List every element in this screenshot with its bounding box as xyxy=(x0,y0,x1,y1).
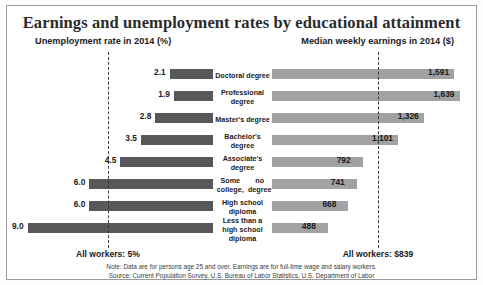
reference-label-earnings: All workers: $839 xyxy=(343,249,414,259)
unemployment-cell: 1.9 xyxy=(7,86,213,108)
footer: Note: Data are for persons age 25 and ov… xyxy=(7,262,476,281)
right-axis-title: Median weekly earnings in 2014 ($) xyxy=(301,36,454,46)
earnings-value: 668 xyxy=(322,199,336,209)
chart-frame: Earnings and unemployment rates by educa… xyxy=(6,5,477,280)
earnings-cell: 668 xyxy=(272,196,478,218)
category-label: Professional degree xyxy=(213,86,272,108)
earnings-bar xyxy=(272,69,454,79)
unemployment-cell: 4.5 xyxy=(7,152,213,174)
unemployment-cell: 2.8 xyxy=(7,108,213,130)
earnings-value: 1,639 xyxy=(434,89,455,99)
chart-row: 4.5Associate's degree792 xyxy=(7,152,478,174)
unemployment-bar xyxy=(120,157,213,167)
unemployment-cell: 2.1 xyxy=(7,64,213,86)
unemployment-value: 1.9 xyxy=(158,89,170,99)
category-label: Bachelor's degree xyxy=(213,130,272,152)
earnings-cell: 741 xyxy=(272,174,478,196)
earnings-cell: 1,326 xyxy=(272,108,478,130)
category-label: Less than ahigh school diploma xyxy=(213,218,272,240)
reference-line-earnings xyxy=(378,52,379,248)
plot-area: 2.1Doctoral degree1,5911.9Professional d… xyxy=(7,54,478,244)
unemployment-value: 6.0 xyxy=(74,177,86,187)
earnings-cell: 488 xyxy=(272,218,478,240)
unemployment-bar xyxy=(141,135,213,145)
earnings-cell: 1,591 xyxy=(272,64,478,86)
earnings-cell: 1,101 xyxy=(272,130,478,152)
unemployment-bar xyxy=(155,113,213,123)
category-label: Master's degree xyxy=(213,108,272,130)
earnings-value: 1,326 xyxy=(398,111,419,121)
footer-source: Source: Current Population Survey, U.S. … xyxy=(7,271,476,280)
earnings-bar xyxy=(272,91,460,101)
earnings-bar xyxy=(272,223,328,233)
earnings-cell: 792 xyxy=(272,152,478,174)
unemployment-value: 6.0 xyxy=(74,199,86,209)
earnings-value: 792 xyxy=(337,155,351,165)
reference-label-unemployment: All workers: 5% xyxy=(76,249,140,259)
unemployment-value: 3.5 xyxy=(125,133,137,143)
chart-page: Earnings and unemployment rates by educa… xyxy=(0,0,483,285)
reference-line-unemployment xyxy=(108,52,109,248)
chart-row: 3.5Bachelor's degree1,101 xyxy=(7,130,478,152)
unemployment-bar xyxy=(170,69,213,79)
earnings-value: 1,591 xyxy=(428,67,449,77)
unemployment-bar xyxy=(174,91,213,101)
left-axis-title: Unemployment rate in 2014 (%) xyxy=(35,36,171,46)
unemployment-value: 4.5 xyxy=(105,155,117,165)
earnings-cell: 1,639 xyxy=(272,86,478,108)
unemployment-value: 2.1 xyxy=(154,67,166,77)
footer-note: Note: Data are for persons age 25 and ov… xyxy=(7,262,476,271)
chart-row: 1.9Professional degree1,639 xyxy=(7,86,478,108)
unemployment-cell: 6.0 xyxy=(7,196,213,218)
unemployment-bar xyxy=(28,223,213,233)
unemployment-value: 2.8 xyxy=(140,111,152,121)
chart-row: 2.8Master's degree1,326 xyxy=(7,108,478,130)
unemployment-cell: 6.0 xyxy=(7,174,213,196)
page-title: Earnings and unemployment rates by educa… xyxy=(7,13,476,33)
unemployment-cell: 9.0 xyxy=(7,218,213,240)
chart-row: 9.0Less than ahigh school diploma488 xyxy=(7,218,478,240)
unemployment-value: 9.0 xyxy=(12,221,24,231)
earnings-bar xyxy=(272,201,348,211)
category-label: Some college,no degree xyxy=(213,174,272,196)
category-label: Doctoral degree xyxy=(213,64,272,86)
earnings-value: 741 xyxy=(331,177,345,187)
unemployment-cell: 3.5 xyxy=(7,130,213,152)
earnings-value: 488 xyxy=(302,221,316,231)
earnings-value: 1,101 xyxy=(372,133,393,143)
chart-row: 6.0Some college,no degree741 xyxy=(7,174,478,196)
category-label: Associate's degree xyxy=(213,152,272,174)
chart-row: 2.1Doctoral degree1,591 xyxy=(7,64,478,86)
